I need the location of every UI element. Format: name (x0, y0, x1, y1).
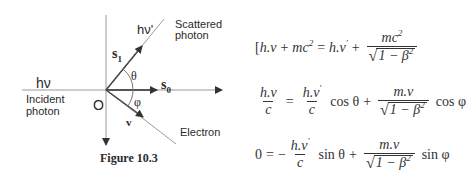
scattered-caption-line2: photon (175, 30, 209, 41)
eq3-t1-prime: ' (308, 137, 310, 147)
eq2-sqrt-text: 1 − β (390, 102, 420, 117)
phi-arc (127, 90, 133, 107)
eq3-t1-den: c (295, 154, 305, 171)
eq2-sqrt: √1 − β2 (380, 102, 427, 118)
eq1-lhs-b-exp: 2 (309, 38, 314, 48)
eq1-sqrt-body: 1 − β2 (376, 48, 415, 64)
eq3-sin-phi: sin φ (422, 147, 450, 163)
eq3-sqrt-body: 1 − β2 (374, 155, 413, 171)
eq1-sqrt: √1 − β2 (369, 48, 416, 64)
eq3-t1-fraction: h.v' c (289, 139, 312, 170)
eq1-lhs-b: mc2 (292, 40, 313, 56)
momentum-y-equation: 0 = − h.v' c sin θ + m.v √1 − β2 sin φ (255, 133, 450, 177)
s0-label: s0 (161, 78, 171, 95)
eq1-rhs-a-base: h.v (329, 40, 346, 55)
eq1-lhs-a: h.v (260, 40, 277, 56)
incident-caption-line2: photon (26, 106, 60, 117)
eq2-lhs-fraction: h.v c (258, 86, 279, 117)
eq2-t2-den: √1 − β2 (378, 100, 429, 119)
figure-caption: Figure 10.3 (100, 152, 158, 164)
eq1-rhs-a-prime: ' (346, 38, 348, 48)
eq3-t2-num: m.v (377, 138, 401, 153)
compton-scattering-diagram: hν Incident photon O hν' Scattered photo… (0, 0, 235, 183)
eq2-cos-theta: cos θ (330, 94, 359, 110)
eq1-frac-num-exp: 2 (398, 29, 403, 39)
s0-subscript: 0 (166, 85, 171, 95)
s1-subscript: 1 (117, 54, 122, 64)
eq3-sin-theta: sin θ (318, 147, 345, 163)
eq1-plus: + (280, 40, 288, 56)
eq2-t1-fraction: h.v' c (301, 86, 324, 117)
eq3-plus: + (349, 147, 357, 163)
eq1-plus-2: + (352, 40, 360, 56)
eq1-sqrt-text: 1 − β (378, 48, 408, 63)
eq2-sqrt-body: 1 − β2 (388, 102, 427, 118)
eq1-frac-num: mc2 (380, 31, 405, 46)
eq2-t1-prime: ' (319, 84, 321, 94)
eq3-sqrt-exp: 2 (406, 154, 411, 164)
eq1-lhs-b-base: mc (292, 40, 308, 55)
eq2-t1-num: h.v' (301, 86, 324, 101)
eq3-sqrt-text: 1 − β (376, 155, 406, 170)
eq1-sqrt-exp: 2 (409, 47, 414, 57)
momentum-x-equation: h.v c = h.v' c cos θ + m.v √1 − β2 cos φ (255, 80, 466, 124)
eq2-t2-num: m.v (392, 85, 416, 100)
eq2-t1-den: c (307, 101, 317, 118)
electron-label: Electron (180, 127, 220, 138)
incident-caption-line1: Incident (26, 94, 65, 105)
eq3-t2-den: √1 − β2 (364, 153, 415, 172)
eq1-frac-den: √1 − β2 (367, 46, 418, 65)
origin-label: O (93, 98, 104, 112)
eq3-t2-fraction: m.v √1 − β2 (364, 138, 415, 171)
eq1-rhs-a: h.v' (329, 40, 348, 56)
eq3-minus: − (278, 147, 286, 163)
incident-energy-label: hν (36, 76, 51, 90)
theta-label: θ (131, 70, 137, 82)
eq1-frac-num-base: mc (382, 30, 398, 45)
eq2-sqrt-exp: 2 (420, 101, 425, 111)
scattered-energy-label: hν' (137, 23, 153, 36)
eq3-sqrt: √1 − β2 (366, 155, 413, 171)
eq3-lhs: 0 (255, 147, 262, 163)
eq3-t1-num: h.v' (289, 139, 312, 154)
eq2-t1-num-base: h.v (303, 85, 320, 100)
energy-conservation-equation: [ h.v + mc2 = h.v' + mc2 √1 − β2 (255, 28, 420, 68)
s1-label: s1 (112, 47, 122, 64)
phi-label: φ (134, 96, 141, 108)
eq1-fraction: mc2 √1 − β2 (367, 31, 418, 64)
eq2-cos-phi: cos φ (436, 94, 466, 110)
eq1-equals: = (317, 40, 325, 56)
eq2-t2-fraction: m.v √1 − β2 (378, 85, 429, 118)
velocity-label: v (126, 117, 132, 128)
eq2-equals: = (286, 94, 294, 110)
eq2-plus: + (363, 94, 371, 110)
eq3-equals: = (266, 147, 274, 163)
eq2-lhs-num: h.v (258, 86, 279, 101)
eq3-t1-num-base: h.v (291, 138, 308, 153)
eq2-lhs-den: c (263, 101, 273, 118)
